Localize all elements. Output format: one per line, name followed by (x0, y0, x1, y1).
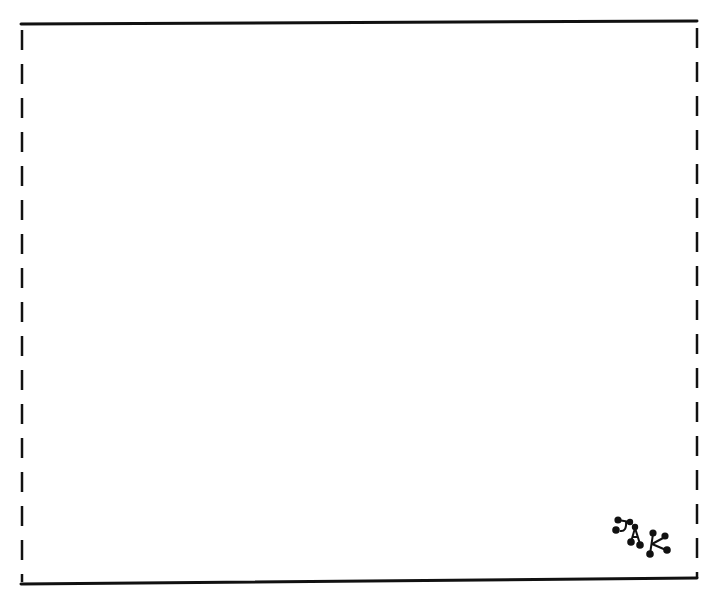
monogram-letter-a (628, 525, 643, 548)
frame-bottom-edge (21, 578, 697, 584)
monogram-jak-icon (612, 516, 676, 560)
frame-top-edge (21, 21, 697, 24)
monogram-letter-k (647, 530, 670, 556)
monogram-letter-j (613, 517, 632, 532)
drawing-sheet (0, 0, 717, 596)
